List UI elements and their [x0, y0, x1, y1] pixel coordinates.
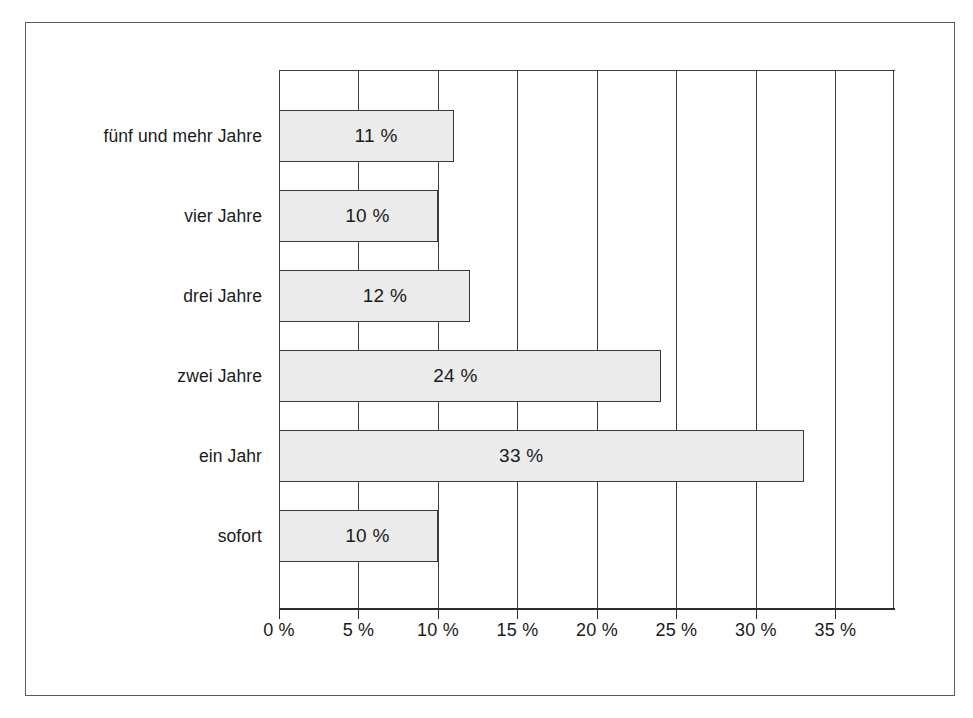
x-tick-10 — [438, 608, 439, 619]
x-tick-35 — [835, 608, 836, 619]
x-tick-label-35: 35 % — [814, 620, 856, 641]
bar-value-label: 24 % — [433, 365, 478, 387]
gridline-15 — [517, 70, 518, 608]
x-tick-label-25: 25 % — [655, 620, 697, 641]
x-tick-15 — [517, 608, 518, 619]
x-tick-0 — [279, 608, 280, 619]
bar: 11 % — [279, 110, 454, 162]
gridline-35 — [835, 70, 836, 608]
category-label: sofort — [218, 526, 262, 547]
x-tick-20 — [597, 608, 598, 619]
category-label: ein Jahr — [199, 446, 262, 467]
x-tick-30 — [756, 608, 757, 619]
x-tick-5 — [358, 608, 359, 619]
category-axis-labels: fünf und mehr Jahrevier Jahredrei Jahrez… — [0, 0, 262, 718]
bar: 12 % — [279, 270, 470, 322]
bar-value-label: 12 % — [363, 285, 408, 307]
bar: 24 % — [279, 350, 661, 402]
category-label: vier Jahre — [184, 206, 262, 227]
bar-value-label: 33 % — [499, 445, 544, 467]
x-tick-label-0: 0 % — [263, 620, 295, 641]
gridline-20 — [597, 70, 598, 608]
gridline-25 — [676, 70, 677, 608]
category-label: zwei Jahre — [177, 366, 262, 387]
plot-right-edge — [893, 70, 894, 608]
x-tick-label-30: 30 % — [735, 620, 777, 641]
bar: 10 % — [279, 510, 438, 562]
x-axis-line — [279, 608, 895, 610]
category-label: fünf und mehr Jahre — [103, 126, 262, 147]
x-tick-label-10: 10 % — [417, 620, 459, 641]
category-label: drei Jahre — [183, 286, 262, 307]
x-tick-label-5: 5 % — [343, 620, 375, 641]
bar: 33 % — [279, 430, 804, 482]
bar-value-label: 10 % — [345, 205, 390, 227]
x-tick-label-20: 20 % — [576, 620, 618, 641]
x-tick-25 — [676, 608, 677, 619]
x-tick-label-15: 15 % — [497, 620, 539, 641]
gridline-30 — [756, 70, 757, 608]
bar: 10 % — [279, 190, 438, 242]
bar-value-label: 11 % — [355, 125, 398, 147]
bar-value-label: 10 % — [345, 525, 390, 547]
chart-figure: fünf und mehr Jahrevier Jahredrei Jahrez… — [0, 0, 973, 718]
